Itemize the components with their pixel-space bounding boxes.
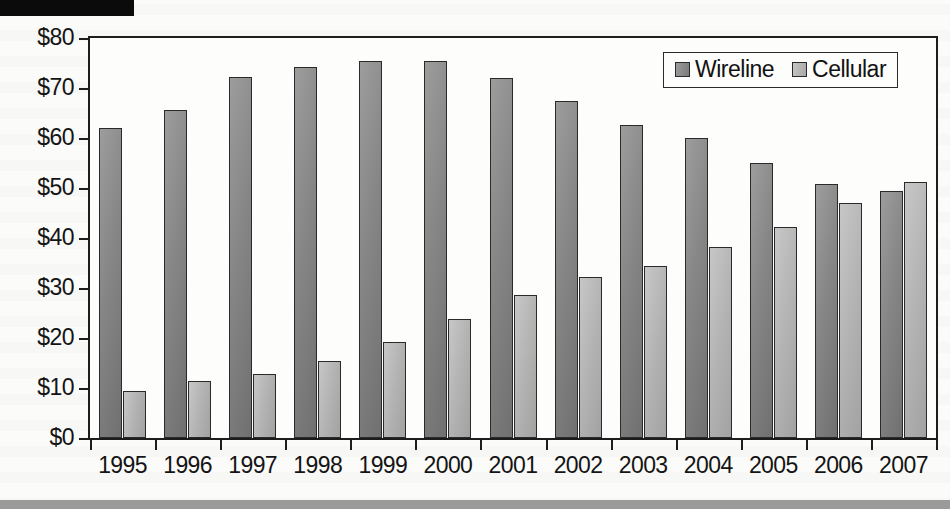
bar-wireline-2007 xyxy=(880,191,903,439)
x-tick-label-2002: 2002 xyxy=(546,452,611,479)
bar-wireline-1997 xyxy=(229,77,252,438)
bar-wireline-1996 xyxy=(164,110,187,439)
x-tick-label-2007: 2007 xyxy=(871,452,936,479)
legend-swatch-wireline-icon xyxy=(675,62,690,77)
y-tick-mark xyxy=(79,388,88,390)
bar-cellular-1997 xyxy=(253,374,276,438)
bar-wireline-2002 xyxy=(555,101,578,438)
x-tick-mark xyxy=(611,440,613,450)
legend-entry-cellular: Cellular xyxy=(792,56,886,83)
bar-wireline-2004 xyxy=(685,138,708,439)
x-tick-mark xyxy=(676,440,678,450)
y-tick-mark xyxy=(79,138,88,140)
y-tick-mark xyxy=(79,238,88,240)
x-tick-mark xyxy=(871,440,873,450)
chart-legend: Wireline Cellular xyxy=(663,52,898,88)
bar-cellular-2001 xyxy=(514,295,537,439)
x-tick-label-1996: 1996 xyxy=(155,452,220,479)
y-tick-mark xyxy=(79,288,88,290)
x-tick-mark xyxy=(155,440,157,450)
x-tick-mark xyxy=(806,440,808,450)
x-tick-label-1999: 1999 xyxy=(350,452,415,479)
bar-cellular-2000 xyxy=(448,319,471,439)
x-tick-mark xyxy=(220,440,222,450)
x-tick-label-1998: 1998 xyxy=(285,452,350,479)
y-tick-mark xyxy=(79,38,88,40)
bar-cellular-2006 xyxy=(839,203,862,438)
bar-wireline-1998 xyxy=(294,67,317,439)
bar-wireline-2005 xyxy=(750,163,773,438)
bar-wireline-2000 xyxy=(424,61,447,438)
screenshot-page: $0$10$20$30$40$50$60$70$80 1995199619971… xyxy=(0,0,950,509)
x-tick-label-2004: 2004 xyxy=(676,452,741,479)
legend-label-cellular: Cellular xyxy=(812,56,886,83)
y-tick-label: $40 xyxy=(37,224,74,251)
x-tick-mark xyxy=(285,440,287,450)
y-tick-label: $10 xyxy=(37,374,74,401)
x-tick-label-2006: 2006 xyxy=(806,452,871,479)
legend-label-wireline: Wireline xyxy=(695,56,774,83)
x-tick-label-1997: 1997 xyxy=(220,452,285,479)
bar-wireline-2003 xyxy=(620,125,643,438)
x-tick-mark xyxy=(936,440,938,450)
x-axis-line xyxy=(88,438,938,440)
chart-plot-area xyxy=(90,38,936,438)
bar-cellular-2007 xyxy=(904,182,927,439)
x-tick-label-2000: 2000 xyxy=(415,452,480,479)
y-tick-label: $50 xyxy=(37,174,74,201)
bar-wireline-1999 xyxy=(359,61,382,439)
x-tick-label-1995: 1995 xyxy=(90,452,155,479)
legend-entry-wireline: Wireline xyxy=(675,56,774,83)
bar-wireline-1995 xyxy=(99,128,122,439)
page-bottom-rule xyxy=(0,500,950,509)
x-tick-mark xyxy=(90,440,92,450)
x-tick-mark xyxy=(741,440,743,450)
x-tick-mark xyxy=(415,440,417,450)
bar-cellular-2005 xyxy=(774,227,797,439)
legend-swatch-cellular-icon xyxy=(792,62,807,77)
y-tick-mark xyxy=(79,338,88,340)
x-tick-mark xyxy=(350,440,352,450)
bar-wireline-2006 xyxy=(815,184,838,439)
bar-cellular-1999 xyxy=(383,342,406,438)
bar-wireline-2001 xyxy=(490,78,513,438)
bar-cellular-2002 xyxy=(579,277,602,439)
y-tick-label: $20 xyxy=(37,324,74,351)
y-tick-label: $80 xyxy=(37,24,74,51)
x-tick-label-2003: 2003 xyxy=(611,452,676,479)
x-tick-label-2001: 2001 xyxy=(480,452,545,479)
y-tick-mark xyxy=(79,188,88,190)
bar-cellular-1995 xyxy=(123,391,146,438)
x-tick-mark xyxy=(480,440,482,450)
bar-cellular-1998 xyxy=(318,361,341,438)
bar-cellular-1996 xyxy=(188,381,211,438)
y-tick-label: $70 xyxy=(37,74,74,101)
y-tick-mark xyxy=(79,438,88,440)
y-tick-label: $60 xyxy=(37,124,74,151)
y-tick-label: $30 xyxy=(37,274,74,301)
bar-cellular-2004 xyxy=(709,247,732,438)
y-tick-label: $0 xyxy=(49,424,74,451)
redaction-bar xyxy=(0,0,134,16)
bar-cellular-2003 xyxy=(644,266,667,439)
x-tick-mark xyxy=(546,440,548,450)
x-tick-label-2005: 2005 xyxy=(741,452,806,479)
y-tick-mark xyxy=(79,88,88,90)
